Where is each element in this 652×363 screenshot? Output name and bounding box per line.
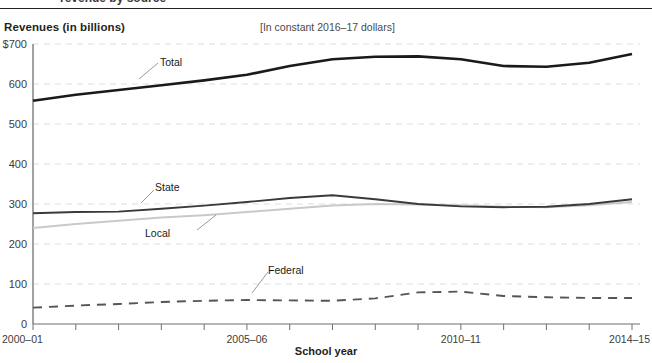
- series-label-state: State: [155, 181, 180, 193]
- line-chart-svg: 0100200300400500600$700 2000–012005–0620…: [0, 0, 652, 363]
- series-label-federal: Federal: [268, 264, 304, 276]
- leader-line: [139, 63, 158, 79]
- series-label-local: Local: [145, 227, 170, 239]
- leader-line: [141, 190, 154, 203]
- series-group: [33, 54, 632, 308]
- y-tick-label: 300: [9, 198, 27, 210]
- leader-line: [252, 272, 268, 293]
- series-label-total: Total: [160, 56, 182, 68]
- leader-lines-group: [139, 63, 268, 293]
- y-axis-group: 0100200300400500600$700: [3, 38, 33, 330]
- y-tick-label: $700: [3, 38, 27, 50]
- gridlines-group: [33, 44, 640, 284]
- series-line-total: [33, 54, 632, 101]
- x-tick-label: 2014–15: [609, 333, 650, 345]
- y-tick-label: 400: [9, 158, 27, 170]
- leader-line: [197, 215, 216, 230]
- x-tick-label: 2010–11: [441, 333, 481, 345]
- x-tick-label: 2000–01: [2, 333, 43, 345]
- y-tick-label: 500: [9, 118, 27, 130]
- x-tick-label: 2005–06: [226, 333, 267, 345]
- series-line-federal: [33, 292, 632, 308]
- y-tick-label: 600: [9, 78, 27, 90]
- chart-plot-area: 0100200300400500600$700 2000–012005–0620…: [0, 0, 652, 363]
- x-axis-title: School year: [0, 345, 652, 357]
- y-tick-label: 0: [21, 318, 27, 330]
- y-tick-label: 100: [9, 278, 27, 290]
- y-tick-label: 200: [9, 238, 27, 250]
- x-axis-group: 2000–012005–062010–112014–15: [2, 324, 650, 345]
